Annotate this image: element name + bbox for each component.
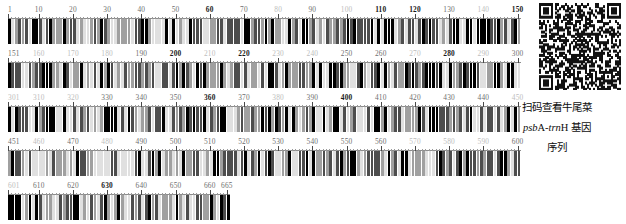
sequence-bar	[251, 151, 254, 176]
sequence-bar	[15, 107, 18, 132]
sequence-bar	[169, 151, 172, 176]
qr-code[interactable]	[539, 3, 621, 90]
sequence-bar	[83, 63, 86, 88]
sequence-bar	[418, 151, 421, 176]
sequence-bar	[189, 195, 192, 220]
sequence-bar	[217, 107, 220, 132]
sequence-bar	[162, 19, 165, 44]
sequence-bar	[29, 63, 32, 88]
sequence-bar	[179, 63, 182, 88]
sequence-bar	[237, 107, 240, 132]
sequence-bar	[329, 63, 332, 88]
sequence-bar	[292, 107, 295, 132]
sequence-bar	[59, 107, 62, 132]
sequence-bar	[319, 19, 322, 44]
sequence-bar	[186, 195, 189, 220]
sequence-bar	[145, 195, 148, 220]
sequence-bar	[261, 19, 264, 44]
sequence-bar	[306, 151, 309, 176]
position-ruler: 4514604704804905005105205305405505605705…	[8, 136, 521, 151]
sequence-bar	[415, 107, 418, 132]
sequence-bar	[271, 63, 274, 88]
ruler-label: 650	[170, 182, 182, 190]
sequence-bar	[312, 63, 315, 88]
sequence-bar	[124, 63, 127, 88]
sequence-bar	[121, 107, 124, 132]
sequence-bar	[8, 19, 11, 44]
sequence-bar	[377, 107, 380, 132]
sequence-bar	[500, 63, 503, 88]
ruler-label: 560	[375, 138, 387, 146]
qr-code-canvas[interactable]	[539, 3, 621, 90]
sequence-bar	[15, 19, 18, 44]
sequence-bar	[316, 107, 319, 132]
barcode-row: 4514604704804905005105205305405505605705…	[8, 136, 521, 176]
sequence-bar	[391, 107, 394, 132]
sequence-bar	[42, 195, 45, 220]
sequence-bar	[83, 151, 86, 176]
sequence-bar	[367, 19, 370, 44]
sequence-bar	[432, 151, 435, 176]
sequence-bars	[8, 151, 521, 176]
sequence-bar	[436, 107, 439, 132]
sequence-bar	[353, 151, 356, 176]
ruler-label: 530	[272, 138, 284, 146]
sequence-bar	[323, 19, 326, 44]
sequence-bar	[381, 107, 384, 132]
sequence-bar	[138, 63, 141, 88]
sequence-bar	[398, 63, 401, 88]
sequence-bar	[66, 19, 69, 44]
sequence-bar	[473, 151, 476, 176]
sequence-bar	[220, 107, 223, 132]
sequence-bar	[155, 63, 158, 88]
sequence-bar	[213, 195, 216, 220]
sequence-bar	[473, 19, 476, 44]
sequence-bar	[18, 19, 21, 44]
sequence-bar	[432, 19, 435, 44]
sequence-bar	[326, 19, 329, 44]
sequence-bar	[155, 107, 158, 132]
sequence-bar	[268, 19, 271, 44]
sequence-bar	[364, 19, 367, 44]
sequence-bar	[292, 151, 295, 176]
sequence-bar	[381, 63, 384, 88]
sequence-bar	[350, 107, 353, 132]
sequence-bar	[285, 19, 288, 44]
sequence-bar	[381, 151, 384, 176]
ruler-label: 200	[170, 50, 182, 58]
sequence-bar	[46, 19, 49, 44]
ruler-label: 10	[35, 6, 43, 14]
sequence-bar	[172, 151, 175, 176]
sequence-bar	[94, 195, 97, 220]
sequence-bar	[412, 107, 415, 132]
sequence-bar	[176, 63, 179, 88]
ruler-label: 360	[204, 94, 216, 102]
sequence-bar	[350, 63, 353, 88]
sequence-bar	[217, 195, 220, 220]
sequence-bar	[504, 63, 507, 88]
sequence-bar	[477, 151, 480, 176]
barcode-row: 3013103203303403503603703803904004104204…	[8, 92, 521, 132]
sequence-bar	[165, 151, 168, 176]
sequence-bar	[326, 107, 329, 132]
ruler-label: 190	[136, 50, 148, 58]
sequence-bar	[285, 151, 288, 176]
sequence-bar	[316, 19, 319, 44]
sequence-bar	[251, 63, 254, 88]
sequence-bar	[162, 195, 165, 220]
sequence-bar	[360, 63, 363, 88]
sequence-bar	[230, 63, 233, 88]
sequence-bar	[210, 63, 213, 88]
ruler-label: 570	[409, 138, 421, 146]
sequence-bar	[104, 19, 107, 44]
sequence-bar	[254, 107, 257, 132]
sequence-bar	[59, 63, 62, 88]
ruler-label: 665	[221, 182, 233, 190]
sequence-bar	[73, 63, 76, 88]
ruler-label: 410	[375, 94, 387, 102]
sequence-bar	[425, 151, 428, 176]
sequence-bar	[46, 107, 49, 132]
sequence-bar	[94, 63, 97, 88]
sequence-bar	[158, 63, 161, 88]
sequence-bar	[504, 19, 507, 44]
